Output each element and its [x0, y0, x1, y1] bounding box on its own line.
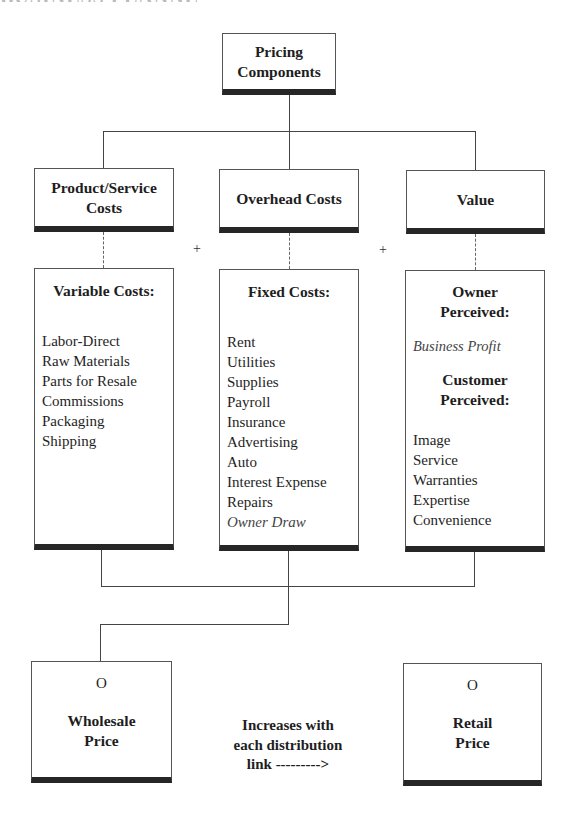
list-item-owner-draw: Owner Draw: [227, 512, 358, 532]
note-line: each distribution: [210, 736, 366, 756]
variable-costs-list: Labor-Direct Raw Materials Parts for Res…: [35, 331, 173, 451]
fixed-costs-list: Rent Utilities Supplies Payroll Insuranc…: [220, 332, 358, 532]
list-item: Commissions: [42, 391, 173, 411]
value-box: Value: [406, 170, 545, 234]
list-item: Raw Materials: [42, 351, 173, 371]
wholesale-price-title: Wholesale Price: [32, 711, 171, 751]
heading-line: Customer: [406, 370, 544, 390]
title-line: Components: [237, 62, 321, 82]
list-item: Advertising: [227, 432, 358, 452]
fixed-costs-heading: Fixed Costs:: [220, 282, 358, 302]
dashed-connector-value: [475, 234, 476, 270]
value-title: Value: [457, 190, 494, 210]
list-item: Rent: [227, 332, 358, 352]
list-item: Convenience: [413, 510, 544, 530]
title-line: Retail: [404, 713, 541, 733]
note-line: Increases with: [210, 716, 366, 736]
list-item: Utilities: [227, 352, 358, 372]
variable-costs-heading: Variable Costs:: [35, 281, 173, 301]
connector-variable-down: [101, 550, 102, 586]
variable-costs-box: Variable Costs: Labor-Direct Raw Materia…: [34, 268, 174, 550]
list-item: Auto: [227, 452, 358, 472]
list-item: Insurance: [227, 412, 358, 432]
list-item: Repairs: [227, 492, 358, 512]
connector-to-wholesale-horizontal: [100, 624, 289, 625]
dashed-connector-fixed: [289, 233, 290, 269]
customer-perceived-list: Image Service Warranties Expertise Conve…: [406, 430, 544, 530]
distribution-note: Increases with each distribution link --…: [210, 716, 366, 775]
connector-bottom-horizontal: [101, 586, 475, 587]
list-item: Parts for Resale: [42, 371, 173, 391]
connector-to-overhead-costs: [289, 131, 290, 169]
plus-operator: +: [193, 242, 201, 256]
retail-price-box: O Retail Price: [403, 663, 542, 786]
owner-perceived-heading: Owner Perceived:: [406, 282, 544, 322]
cutoff-page-heading: BUSINESS PLANNER: [0, 0, 200, 2]
retail-price-title: Retail Price: [404, 713, 541, 753]
list-item: Payroll: [227, 392, 358, 412]
heading-line: Perceived:: [406, 302, 544, 322]
pricing-components-box: Pricing Components: [222, 33, 336, 95]
list-item: Image: [413, 430, 544, 450]
connector-fixed-down: [288, 551, 289, 625]
connector-value-down: [474, 552, 475, 587]
title-line: Pricing: [237, 42, 321, 62]
list-item: Labor-Direct: [42, 331, 173, 351]
fixed-costs-box: Fixed Costs: Rent Utilities Supplies Pay…: [219, 269, 359, 551]
title-line: Price: [404, 733, 541, 753]
heading-line: Owner: [406, 282, 544, 302]
list-item: Packaging: [42, 411, 173, 431]
title-line: Product/Service: [51, 178, 157, 198]
connector-root-down: [289, 95, 290, 132]
customer-perceived-heading: Customer Perceived:: [406, 370, 544, 410]
connector-to-value: [475, 131, 476, 171]
dashed-connector-variable: [103, 232, 104, 268]
product-service-costs-title: Product/Service Costs: [51, 178, 157, 218]
overhead-costs-box: Overhead Costs: [219, 169, 359, 233]
plus-operator: +: [379, 243, 387, 257]
note-line: link --------->: [210, 755, 366, 775]
business-profit-item: Business Profit: [406, 336, 544, 356]
wholesale-circle-mark: O: [32, 674, 171, 692]
title-line: Costs: [51, 198, 157, 218]
list-item: Warranties: [413, 470, 544, 490]
pricing-components-title: Pricing Components: [237, 42, 321, 82]
wholesale-price-box: O Wholesale Price: [31, 661, 172, 783]
list-item: Shipping: [42, 431, 173, 451]
list-item: Expertise: [413, 490, 544, 510]
value-details-box: Owner Perceived: Business Profit Custome…: [405, 270, 545, 552]
heading-line: Perceived:: [406, 390, 544, 410]
retail-circle-mark: O: [404, 676, 541, 694]
list-item: Interest Expense: [227, 472, 358, 492]
connector-to-wholesale: [100, 624, 101, 662]
title-line: Wholesale: [32, 711, 171, 731]
title-line: Price: [32, 731, 171, 751]
list-item: Supplies: [227, 372, 358, 392]
list-item: Service: [413, 450, 544, 470]
overhead-costs-title: Overhead Costs: [236, 189, 341, 209]
product-service-costs-box: Product/Service Costs: [34, 168, 174, 232]
connector-to-product-costs: [103, 131, 104, 169]
